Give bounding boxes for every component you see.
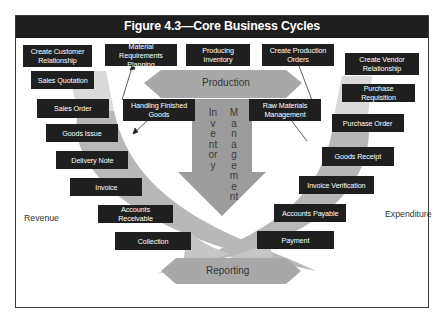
box-delivery-note: Delivery Note xyxy=(56,151,128,169)
box-accounts-receivable: Accounts Receivable xyxy=(98,205,173,223)
box-raw-materials-management: Raw Materials Management xyxy=(249,99,321,121)
box-create-production-orders: Create Production Orders xyxy=(262,44,334,66)
production-label: Production xyxy=(202,77,250,88)
box-sales-order: Sales Order xyxy=(37,99,109,118)
title-bar: Figure 4.3—Core Business Cycles xyxy=(16,16,428,38)
box-goods-issue: Goods Issue xyxy=(46,124,118,142)
management-label: Management xyxy=(229,108,239,203)
expenditure-label: Expenditure xyxy=(385,208,432,219)
box-payment: Payment xyxy=(257,231,334,249)
box-accounts-payable: Accounts Payable xyxy=(274,204,346,222)
figure-frame: Figure 4.3—Core Business Cycles Create C… xyxy=(15,15,429,308)
box-create-customer-relationship: Create Customer Relationship xyxy=(23,45,92,67)
box-handling-finished-goods: Handling Finished Goods xyxy=(123,99,195,121)
revenue-label: Revenue xyxy=(24,212,59,223)
box-purchase-requisition: Purchase Requisition xyxy=(342,84,415,102)
figure-title: Figure 4.3—Core Business Cycles xyxy=(32,18,411,33)
box-collection: Collection xyxy=(115,232,191,250)
inventory-label: Inventory xyxy=(208,108,218,171)
box-material-requirements-planning: Material Requirements Planning xyxy=(105,44,177,66)
box-invoice: Invoice xyxy=(70,178,142,196)
box-producing-inventory: Producing Inventory xyxy=(186,44,250,66)
reporting-label: Reporting xyxy=(206,265,249,276)
box-goods-receipt: Goods Receipt xyxy=(322,147,394,166)
box-create-vendor-relationship: Create Vendor Relationship xyxy=(345,53,419,75)
box-invoice-verification: Invoice Verification xyxy=(299,176,374,194)
box-purchase-order: Purchase Order xyxy=(332,114,404,132)
box-sales-quotation: Sales Quotation xyxy=(31,71,94,89)
